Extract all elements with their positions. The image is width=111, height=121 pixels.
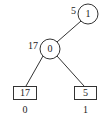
- mid-node-side-label: 17: [24, 41, 38, 51]
- left-leaf-value: 17: [13, 88, 37, 98]
- root-node-side-label: 5: [66, 6, 76, 16]
- edge-mid-to-left-leaf: [26, 56, 43, 86]
- right-leaf-below-label: 1: [74, 105, 97, 115]
- right-leaf-value: 5: [74, 88, 97, 98]
- mid-node-value: 0: [40, 44, 60, 54]
- root-node-value: 1: [78, 9, 98, 19]
- edge-root-to-mid: [57, 21, 81, 42]
- left-leaf-below-label: 0: [13, 105, 37, 115]
- edge-mid-to-right-leaf: [57, 56, 84, 86]
